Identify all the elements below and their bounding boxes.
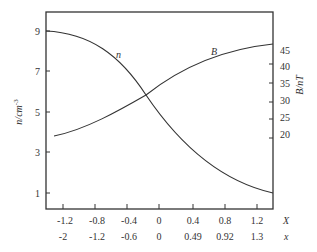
y-left-tick-label: 5 bbox=[35, 107, 40, 118]
y-right-tick-labels: 45 40 35 30 25 20 bbox=[280, 45, 290, 140]
x2-tick-label: -0.6 bbox=[121, 231, 137, 242]
svg-text:n/cm-3: n/cm-3 bbox=[12, 99, 24, 125]
series-n-line bbox=[46, 31, 273, 193]
y-right-tick-label: 40 bbox=[280, 61, 290, 72]
x-tick-label: -0.4 bbox=[121, 215, 137, 226]
x2-tick-label: -2 bbox=[59, 231, 67, 242]
y-left-tick-labels: 9 7 5 3 1 bbox=[35, 26, 40, 199]
x2-tick-label: 0 bbox=[157, 231, 162, 242]
x-ticks bbox=[63, 204, 257, 209]
x-title-secondary: x bbox=[283, 231, 289, 242]
x2-tick-label: 0.92 bbox=[216, 231, 234, 242]
y-left-title: n/cm-3 bbox=[12, 99, 24, 125]
y-left-tick-label: 3 bbox=[35, 147, 40, 158]
y-right-tick-label: 35 bbox=[280, 78, 290, 89]
y-left-tick-label: 7 bbox=[35, 66, 40, 77]
y-right-tick-label: 45 bbox=[280, 45, 290, 56]
plot-frame bbox=[46, 12, 273, 209]
y-right-title-text: B/nT bbox=[294, 74, 305, 95]
x-tick-label: 0.8 bbox=[219, 215, 232, 226]
y-left-title-sup: -3 bbox=[12, 99, 20, 105]
chart: 9 7 5 3 1 n/cm-3 45 40 35 30 25 20 B/nT … bbox=[0, 0, 317, 252]
x2-tick-label: 1.3 bbox=[251, 231, 264, 242]
x-tick-labels-secondary: -2 -1.2 -0.6 0 0.49 0.92 1.3 x bbox=[59, 231, 289, 242]
series-B-line bbox=[54, 44, 273, 136]
series-B-label: B bbox=[211, 46, 217, 57]
x-tick-label: 1.2 bbox=[251, 215, 264, 226]
y-right-tick-label: 20 bbox=[280, 129, 290, 140]
series-n-label: n bbox=[116, 49, 121, 60]
x-tick-label: 0 bbox=[157, 215, 162, 226]
x2-tick-label: 0.49 bbox=[184, 231, 202, 242]
y-right-title: B/nT bbox=[294, 74, 305, 95]
y-right-tick-label: 30 bbox=[280, 95, 290, 106]
x-tick-label: -0.8 bbox=[89, 215, 105, 226]
x-tick-label: -1.2 bbox=[57, 215, 73, 226]
y-left-title-text: n/cm bbox=[13, 105, 24, 124]
x-title-primary: X bbox=[282, 215, 290, 226]
x2-tick-label: -1.2 bbox=[89, 231, 105, 242]
y-left-tick-label: 9 bbox=[35, 26, 40, 37]
y-right-tick-label: 25 bbox=[280, 112, 290, 123]
x-tick-label: 0.4 bbox=[187, 215, 200, 226]
y-left-tick-label: 1 bbox=[35, 188, 40, 199]
x-tick-labels: -1.2 -0.8 -0.4 0 0.4 0.8 1.2 X bbox=[57, 215, 290, 226]
